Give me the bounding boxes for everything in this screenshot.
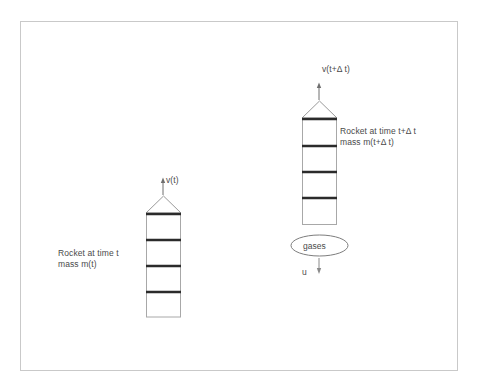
caption-rocket-after: Rocket at time t+Δ t mass m(t+Δ t) <box>340 126 416 148</box>
caption-rocket-after-line1: Rocket at time t+Δ t <box>340 126 416 137</box>
caption-rocket-before-line1: Rocket at time t <box>58 248 119 259</box>
rocket-before-nose-cone <box>146 196 181 213</box>
velocity-label-after: v(t+Δ t) <box>322 64 350 75</box>
rocket-after-nose-cone <box>302 101 337 118</box>
velocity-arrow-after <box>317 83 321 101</box>
velocity-label-before: v(t) <box>166 175 179 186</box>
exhaust-velocity-arrow <box>317 258 321 274</box>
caption-rocket-before-line2: mass m(t) <box>58 259 119 270</box>
diagram-vector-layer <box>0 0 482 392</box>
gases-label: gases <box>303 241 326 251</box>
diagram-canvas: v(t) Rocket at time t mass m(t) v(t+Δ t)… <box>0 0 482 392</box>
velocity-arrow-before <box>161 178 165 196</box>
rocket-after-group <box>302 83 337 225</box>
caption-rocket-after-line2: mass m(t+Δ t) <box>340 137 416 148</box>
caption-rocket-before: Rocket at time t mass m(t) <box>58 248 119 270</box>
rocket-before-group <box>146 178 181 318</box>
exhaust-velocity-label: u <box>302 267 307 277</box>
